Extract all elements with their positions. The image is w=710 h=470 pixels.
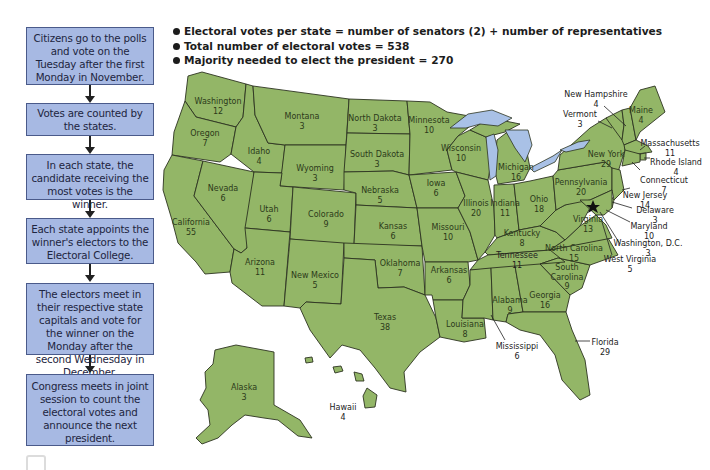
label-hawaii: Hawaii4 bbox=[330, 403, 357, 422]
label-mississippi: Mississippi6 bbox=[496, 342, 539, 361]
label-texas: Texas38 bbox=[374, 313, 396, 332]
label-virginia: Virginia13 bbox=[573, 215, 603, 234]
label-south-dakota: South Dakota3 bbox=[350, 150, 404, 169]
label-vermont: Vermont3 bbox=[563, 110, 597, 129]
leader-maryland bbox=[606, 210, 630, 222]
label-minnesota: Minnesota10 bbox=[408, 116, 449, 135]
state-hawaii-big bbox=[363, 388, 377, 408]
label-indiana: Indiana11 bbox=[490, 199, 520, 218]
label-colorado: Colorado9 bbox=[308, 210, 344, 229]
label-rhode-island: Rhode Island4 bbox=[650, 158, 702, 177]
us-electoral-map: Washington12 Oregon7 California55 Nevada… bbox=[0, 0, 710, 470]
label-new-hampshire: New Hampshire4 bbox=[564, 90, 627, 109]
label-louisiana: Louisiana8 bbox=[446, 320, 484, 339]
label-iowa: Iowa6 bbox=[427, 179, 446, 198]
map-shapes bbox=[0, 0, 710, 470]
label-georgia: Georgia16 bbox=[529, 291, 560, 310]
label-maine: Maine4 bbox=[629, 106, 653, 125]
label-new-york: New York29 bbox=[588, 150, 625, 169]
label-oklahoma: Oklahoma7 bbox=[380, 259, 421, 278]
label-nebraska: Nebraska5 bbox=[361, 186, 399, 205]
label-nevada: Nevada6 bbox=[208, 184, 239, 203]
label-utah: Utah6 bbox=[260, 205, 279, 224]
label-kentucky: Kentucky8 bbox=[504, 229, 541, 248]
label-alabama: Alabama9 bbox=[492, 296, 527, 315]
label-arkansas: Arkansas6 bbox=[431, 266, 467, 285]
label-arizona: Arizona11 bbox=[245, 258, 275, 277]
label-tennessee: Tennessee11 bbox=[496, 251, 538, 270]
label-wisconsin: Wisconsin10 bbox=[441, 144, 481, 163]
state-hawaii-maui bbox=[354, 372, 364, 381]
label-montana: Montana3 bbox=[285, 112, 320, 131]
lake-erie bbox=[530, 150, 562, 172]
label-new-mexico: New Mexico5 bbox=[291, 271, 339, 290]
label-north-carolina: North Carolina15 bbox=[545, 244, 603, 263]
label-washington-dc: Washington, D.C.3 bbox=[614, 239, 683, 258]
label-idaho: Idaho4 bbox=[248, 147, 270, 166]
label-florida: Florida29 bbox=[591, 338, 618, 357]
state-hawaii-oahu bbox=[333, 366, 343, 373]
label-illinois: Illinois20 bbox=[463, 199, 488, 218]
label-oregon: Oregon7 bbox=[190, 129, 219, 148]
label-california: California55 bbox=[172, 218, 210, 237]
label-south-carolina: SouthCarolina9 bbox=[551, 263, 584, 292]
label-kansas: Kansas6 bbox=[379, 222, 407, 241]
label-ohio: Ohio18 bbox=[530, 195, 548, 214]
label-missouri: Missouri10 bbox=[432, 223, 465, 242]
label-pennsylvania: Pennsylvania20 bbox=[555, 178, 608, 197]
label-wyoming: Wyoming3 bbox=[296, 164, 334, 183]
label-washington: Washington12 bbox=[194, 97, 241, 116]
state-hawaii-kauai bbox=[305, 357, 313, 363]
label-massachusetts: Massachusetts11 bbox=[640, 139, 699, 158]
label-michigan: Michigan16 bbox=[498, 163, 534, 182]
label-alaska: Alaska3 bbox=[231, 383, 257, 402]
label-north-dakota: North Dakota3 bbox=[348, 114, 401, 133]
